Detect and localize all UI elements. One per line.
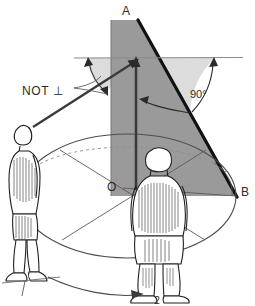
horizon-line bbox=[74, 58, 243, 59]
label-vertex-B: B bbox=[241, 185, 249, 199]
label-position-two: 2 bbox=[154, 295, 160, 306]
horizon-line-group bbox=[74, 58, 243, 59]
geometry-diagram: A B O NOT ⊥ 90° 2 bbox=[0, 0, 255, 306]
label-center-O: O bbox=[107, 180, 116, 194]
turn-arrow bbox=[48, 277, 144, 298]
label-not-perpendicular: NOT ⊥ bbox=[22, 84, 63, 98]
label-apex-A: A bbox=[122, 4, 130, 18]
diagram-canvas: A B O NOT ⊥ 90° 2 bbox=[0, 0, 255, 306]
standing-figure-side bbox=[6, 126, 47, 281]
label-right-angle: 90° bbox=[190, 88, 207, 100]
